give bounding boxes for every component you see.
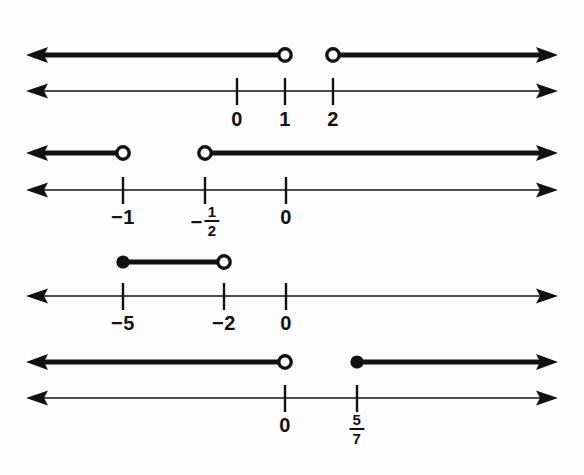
worksheet-canvas: 0 1 2 bbox=[0, 0, 584, 475]
tick-label-3-neg2: −2 bbox=[212, 312, 236, 335]
fraction-numerator: 1 bbox=[206, 204, 219, 220]
tick-label-1-1: 1 bbox=[279, 108, 291, 131]
tick-label-2-neg1: −1 bbox=[111, 206, 135, 229]
solution-ray-right-1 bbox=[339, 47, 558, 63]
open-endpoint-at-neg-2 bbox=[218, 256, 230, 268]
fraction-denominator: 7 bbox=[351, 430, 364, 446]
axis-3 bbox=[26, 289, 558, 304]
tick-label-2-0: 0 bbox=[280, 206, 292, 229]
closed-endpoint-at-neg-5 bbox=[116, 255, 129, 268]
number-line-graphic-2 bbox=[0, 130, 584, 240]
solution-ray-right-4 bbox=[357, 354, 558, 370]
fraction-minus-sign: − bbox=[190, 212, 202, 232]
axis-1 bbox=[26, 84, 558, 99]
number-line-group-2: −1 − 1 2 0 bbox=[0, 130, 584, 240]
solution-ray-left-2 bbox=[26, 145, 118, 161]
tick-label-3-neg5: −5 bbox=[111, 312, 135, 335]
axis-4 bbox=[26, 391, 558, 406]
fraction-denominator: 2 bbox=[206, 222, 219, 238]
tick-label-1-2: 2 bbox=[327, 108, 339, 131]
tick-label-2-neg-one-half: − 1 2 bbox=[190, 204, 219, 238]
open-endpoint-at-1 bbox=[279, 49, 291, 61]
tick-label-3-0: 0 bbox=[280, 312, 292, 335]
open-endpoint-at-2 bbox=[327, 49, 339, 61]
tick-label-1-0: 0 bbox=[231, 108, 243, 131]
number-line-graphic-1 bbox=[0, 0, 584, 130]
number-line-graphic-4 bbox=[0, 340, 584, 475]
number-line-group-3: −5 −2 0 bbox=[0, 240, 584, 340]
tick-label-4-0: 0 bbox=[279, 414, 291, 437]
solution-ray-left-4 bbox=[26, 354, 280, 370]
open-endpoint-at-neg-one-half bbox=[199, 147, 211, 159]
solution-ray-right-2 bbox=[211, 145, 558, 161]
solution-ray-left-1 bbox=[26, 47, 280, 63]
closed-endpoint-at-five-sevenths bbox=[350, 355, 363, 368]
axis-2 bbox=[26, 183, 558, 198]
tick-label-4-five-sevenths: 5 7 bbox=[350, 412, 365, 446]
open-endpoint-at-0 bbox=[279, 356, 291, 368]
number-line-graphic-3 bbox=[0, 240, 584, 340]
fraction-numerator: 5 bbox=[351, 412, 364, 428]
number-line-group-1: 0 1 2 bbox=[0, 0, 584, 130]
number-line-group-4: 0 5 7 bbox=[0, 340, 584, 475]
open-endpoint-at-neg-1 bbox=[117, 147, 129, 159]
